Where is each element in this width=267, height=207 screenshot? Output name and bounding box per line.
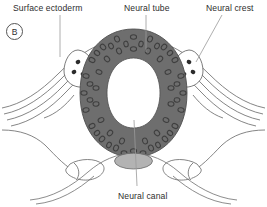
neural-canal-lumen [107, 58, 160, 128]
somite-right [163, 160, 201, 181]
neural-tube [80, 29, 187, 157]
somite-left [66, 160, 104, 181]
notochord [115, 153, 153, 169]
leader-neural-crest [196, 15, 222, 62]
embryo-cross-section-diagram [0, 0, 267, 207]
